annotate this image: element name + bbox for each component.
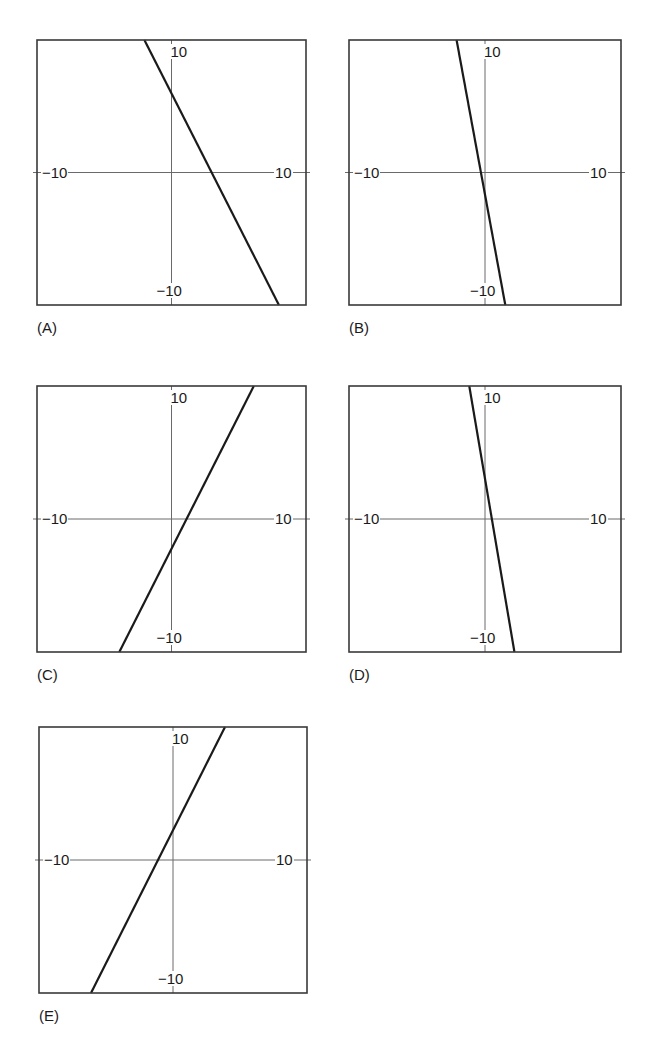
graph-canvas — [39, 727, 307, 993]
tick-label-x-right: 10 — [274, 165, 293, 180]
tick-label-x-right: 10 — [589, 165, 608, 180]
tick-label-x-right: 10 — [275, 852, 294, 867]
tick-label-x-left: −10 — [43, 852, 70, 867]
panel-label: (E) — [39, 1007, 59, 1024]
tick-label-x-left: −10 — [353, 165, 380, 180]
graph-canvas — [349, 40, 621, 305]
panel-label: (D) — [349, 666, 370, 683]
graph-canvas — [349, 386, 621, 652]
tick-label-x-right: 10 — [274, 511, 293, 526]
panel-label: (C) — [37, 666, 58, 683]
graph-canvas — [37, 40, 306, 305]
graph-panel-d: 10−10−1010(D) — [349, 386, 621, 652]
panel-label: (A) — [37, 319, 57, 336]
tick-label-y-top: 10 — [171, 731, 190, 746]
tick-label-x-left: −10 — [353, 511, 380, 526]
tick-label-y-bottom: −10 — [469, 630, 496, 645]
panel-label: (B) — [349, 319, 369, 336]
graph-canvas — [37, 386, 306, 652]
tick-label-y-top: 10 — [483, 44, 502, 59]
tick-label-x-left: −10 — [41, 165, 68, 180]
tick-label-x-right: 10 — [589, 511, 608, 526]
graph-panel-e: 10−10−1010(E) — [39, 727, 307, 993]
tick-label-y-top: 10 — [170, 44, 189, 59]
tick-label-y-bottom: −10 — [156, 630, 183, 645]
graph-panel-c: 10−10−1010(C) — [37, 386, 306, 652]
tick-label-y-top: 10 — [170, 390, 189, 405]
graph-panel-a: 10−10−1010(A) — [37, 40, 306, 305]
tick-label-y-bottom: −10 — [156, 283, 183, 298]
tick-label-y-bottom: −10 — [469, 283, 496, 298]
tick-label-y-bottom: −10 — [157, 971, 184, 986]
graph-panel-b: 10−10−1010(B) — [349, 40, 621, 305]
tick-label-x-left: −10 — [41, 511, 68, 526]
tick-label-y-top: 10 — [483, 390, 502, 405]
